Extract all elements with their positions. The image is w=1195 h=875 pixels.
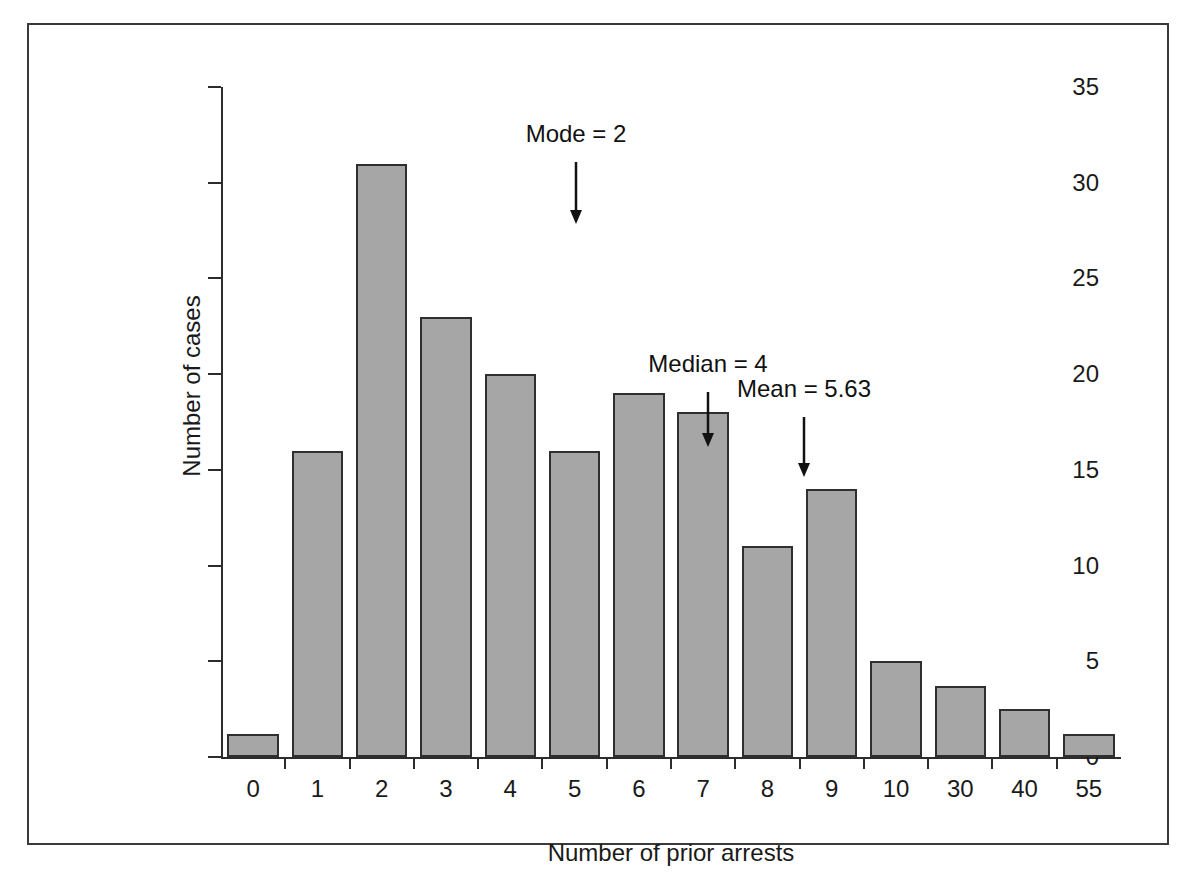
annotation-label: Mode = 2 — [526, 122, 627, 146]
bar — [613, 393, 664, 757]
bar — [485, 374, 536, 757]
x-axis-tick-label: 5 — [542, 777, 606, 801]
y-axis-tick — [208, 469, 221, 471]
y-axis-tick-label: 20 — [1072, 362, 1099, 386]
x-axis-tick-label: 4 — [478, 777, 542, 801]
y-axis-tick — [208, 86, 221, 88]
bar — [227, 734, 278, 757]
y-axis-tick-label: 25 — [1072, 266, 1099, 290]
x-axis-tick-label: 3 — [414, 777, 478, 801]
annotation-label: Mean = 5.63 — [737, 377, 871, 401]
y-axis-tick-label: 30 — [1072, 171, 1099, 195]
plot-area: 05101520253035 012345678910304055 Mode =… — [221, 87, 1121, 757]
y-axis-tick — [208, 756, 221, 758]
x-axis-tick — [477, 757, 479, 769]
bar — [742, 546, 793, 757]
bar — [935, 686, 986, 757]
y-axis-tick — [208, 565, 221, 567]
y-axis-tick — [208, 277, 221, 279]
x-axis-tick — [863, 757, 865, 769]
bar — [999, 709, 1050, 757]
bar — [549, 451, 600, 757]
x-axis-tick — [606, 757, 608, 769]
bar — [806, 489, 857, 757]
figure-frame: 05101520253035 012345678910304055 Mode =… — [27, 23, 1169, 845]
x-axis-tick — [284, 757, 286, 769]
annotation-arrow-icon — [793, 417, 815, 481]
x-axis-tick-label: 1 — [285, 777, 349, 801]
x-axis-title: Number of prior arrests — [221, 839, 1121, 867]
x-axis-tick — [927, 757, 929, 769]
x-axis-tick-label: 6 — [607, 777, 671, 801]
y-axis-tick-label: 35 — [1072, 75, 1099, 99]
x-axis-tick — [349, 757, 351, 769]
annotation-arrow-icon — [697, 392, 719, 451]
x-axis-tick — [991, 757, 993, 769]
bar — [292, 451, 343, 757]
x-axis-tick-label: 55 — [1057, 777, 1121, 801]
x-axis-tick-label: 2 — [350, 777, 414, 801]
x-axis-tick-label: 0 — [221, 777, 285, 801]
annotation-label: Median = 4 — [648, 352, 767, 376]
x-axis-tick-label: 7 — [671, 777, 735, 801]
bar — [870, 661, 921, 757]
annotation-arrow-icon — [565, 162, 587, 228]
y-axis-tick — [208, 373, 221, 375]
bar — [1063, 734, 1114, 757]
y-axis-tick — [208, 660, 221, 662]
y-axis-tick-label: 15 — [1072, 458, 1099, 482]
bar — [420, 317, 471, 757]
x-axis-tick-label: 10 — [864, 777, 928, 801]
x-axis-tick — [670, 757, 672, 769]
y-axis-tick-label: 5 — [1086, 649, 1099, 673]
x-axis-tick — [1056, 757, 1058, 769]
x-axis-tick — [799, 757, 801, 769]
y-axis-title: Number of cases — [178, 295, 206, 476]
x-axis-tick — [413, 757, 415, 769]
x-axis-tick — [734, 757, 736, 769]
x-axis-tick — [541, 757, 543, 769]
bar — [677, 412, 728, 757]
x-axis-tick-label: 8 — [735, 777, 799, 801]
x-axis-tick-label: 30 — [928, 777, 992, 801]
x-axis-tick-label: 9 — [800, 777, 864, 801]
bar — [356, 164, 407, 757]
y-axis-tick-label: 10 — [1072, 554, 1099, 578]
x-axis-tick-label: 40 — [992, 777, 1056, 801]
y-axis-tick — [208, 182, 221, 184]
y-axis-line — [221, 87, 223, 757]
